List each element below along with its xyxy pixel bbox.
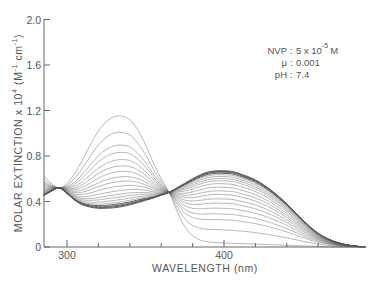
annotation-nvp-colon: : [290, 45, 293, 56]
annotation-ionic-strength-label: μ [282, 57, 287, 68]
y-axis-title-units-close: ) [12, 34, 24, 38]
y-axis-title-units-open: (M [12, 72, 24, 89]
y-axis-title-main: MOLAR EXTINCTION x 10 [12, 93, 24, 232]
y-axis-title: MOLAR EXTINCTION x 104 (M-1 cm-1) [11, 34, 24, 232]
x-tick-label: 400 [215, 249, 233, 261]
annotation-ph-colon: : [290, 69, 293, 80]
spectra-chart: 00.40.81.21.62.0 300400 WAVELENGTH (nm) … [0, 0, 379, 286]
y-tick-label: 2.0 [26, 14, 41, 26]
x-axis-title: WAVELENGTH (nm) [152, 262, 258, 274]
spectrum-curve [43, 132, 365, 247]
annotation-nvp-mantissa: 5 x 10 [296, 45, 322, 56]
spectrum-curve [43, 184, 365, 247]
conditions-annotation: NVP : 5 x 10-5M μ : 0.001 pH : 7.4 [267, 42, 338, 80]
annotation-nvp-value: 5 x 10-5M [296, 42, 338, 56]
x-ticks: 300400 [58, 240, 318, 261]
y-axis-title-units-exp1: -1 [11, 64, 18, 71]
spectrum-curve [43, 116, 365, 247]
annotation-nvp-label: NVP [267, 45, 287, 56]
annotation-ph-value: 7.4 [296, 69, 309, 80]
annotation-ph-label: pH [275, 69, 287, 80]
y-tick-label: 0 [35, 241, 41, 253]
x-tick-label: 300 [58, 249, 76, 261]
y-axis-title-units-mid: cm [12, 45, 24, 64]
annotation-nvp-exp: -5 [322, 42, 328, 49]
y-tick-label: 0.4 [26, 196, 41, 208]
annotation-ionic-strength-value: 0.001 [296, 57, 320, 68]
y-tick-label: 0.8 [26, 150, 41, 162]
y-tick-label: 1.2 [26, 105, 41, 117]
annotation-nvp-unit: M [330, 45, 338, 56]
y-ticks: 00.40.81.21.62.0 [26, 14, 50, 254]
y-tick-label: 1.6 [26, 59, 41, 71]
annotation-ionic-colon: : [290, 57, 293, 68]
y-axis-title-units-exp2: -1 [11, 38, 18, 45]
curves-group [43, 116, 365, 247]
